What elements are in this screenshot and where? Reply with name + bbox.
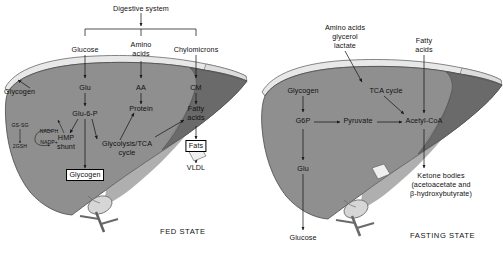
fasting-node-ketone-bodies-line3: β-hydroxybutyrate) xyxy=(410,190,472,198)
fasting-node-acetyl-coa: Acetyl-CoA xyxy=(406,117,443,125)
fasting-state-caption: FASTING STATE xyxy=(410,232,475,240)
fed-node-cm: CM xyxy=(190,84,201,92)
fed-state-caption: FED STATE xyxy=(160,228,206,236)
fasting-node-pyruvate: Pyruvate xyxy=(343,117,372,125)
fed-redox-gssg: GS-SG xyxy=(12,122,29,128)
fed-node-glycogen-output: Glycogen xyxy=(4,88,35,96)
fed-node-protein: Protein xyxy=(129,105,152,113)
fed-node-glucose-6-phosphate: Glu-6-P xyxy=(72,110,97,118)
fed-input-amino-acids-line2: acids xyxy=(132,50,149,58)
fed-redox-nadp: NADP+ xyxy=(40,139,58,145)
fasting-node-g6p: G6P xyxy=(296,117,311,125)
figure-root: Digestive system Glucose Amino acids Chy… xyxy=(0,0,503,260)
fed-node-hmp-shunt-line2: shunt xyxy=(57,143,75,151)
fed-digestive-system-label: Digestive system xyxy=(113,5,169,13)
fed-redox-2gsh: 2GSH xyxy=(13,143,27,149)
fasting-node-glu: Glu xyxy=(297,165,309,173)
fed-node-aa: AA xyxy=(136,84,146,92)
fasting-node-tca-cycle: TCA cycle xyxy=(369,87,402,95)
fasting-node-glycogen: Glycogen xyxy=(287,87,318,95)
fed-node-fatty-acids-line2: acids xyxy=(187,114,204,122)
fed-node-glu: Glu xyxy=(79,84,91,92)
fasting-input-fatty-acids-line2: acids xyxy=(415,46,432,54)
fed-input-glucose-label: Glucose xyxy=(71,46,98,54)
fed-node-vldl: VLDL xyxy=(187,164,205,172)
fed-node-fats-boxed: Fats xyxy=(185,140,206,152)
fasting-input-substrates-line3: lactate xyxy=(334,42,356,50)
fasting-node-glucose-output: Glucose xyxy=(289,234,316,242)
fed-node-glycolysis-tca-line2: cycle xyxy=(119,149,136,157)
fed-input-bracket xyxy=(85,13,196,36)
fed-input-chylomicrons-label: Chylomicrons xyxy=(174,46,219,54)
fed-redox-nadph: NADPH xyxy=(40,128,58,134)
fed-node-glycogen-boxed: Glycogen xyxy=(66,169,104,181)
